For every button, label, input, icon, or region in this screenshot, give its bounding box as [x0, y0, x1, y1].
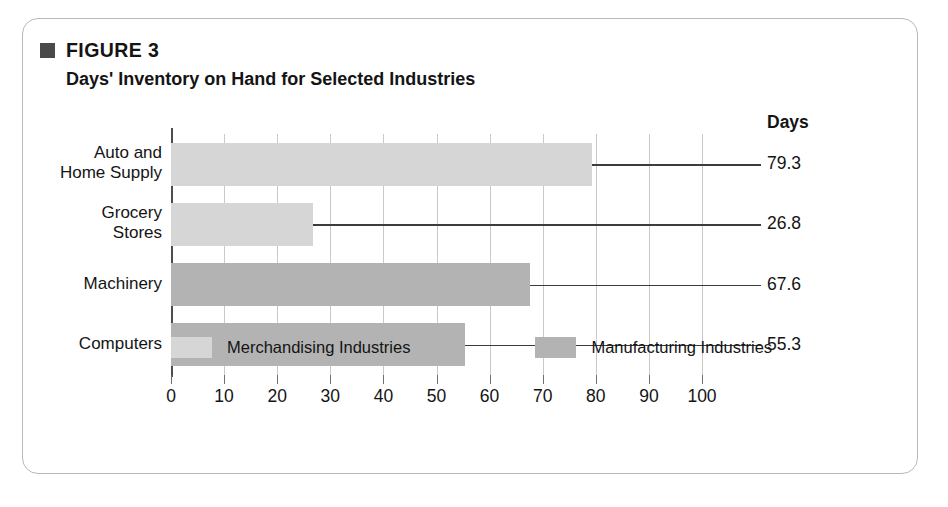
- x-axis-tick-label: 100: [687, 386, 716, 407]
- x-axis-tick-label: 80: [586, 386, 605, 407]
- leader-line: [313, 224, 761, 225]
- x-axis-tick-label: 50: [427, 386, 446, 407]
- category-label: Grocery Stores: [102, 203, 162, 243]
- legend-item-manufacturing: Manufacturing Industries: [535, 337, 772, 358]
- bar: [171, 203, 313, 246]
- value-label: 67.6: [767, 274, 801, 295]
- legend-swatch-icon: [171, 337, 212, 358]
- category-label: Machinery: [84, 274, 162, 294]
- value-label: 26.8: [767, 213, 801, 234]
- category-label: Auto and Home Supply: [60, 143, 162, 183]
- figure-card: FIGURE 3 Days' Inventory on Hand for Sel…: [22, 18, 918, 474]
- x-axis-tick-label: 90: [639, 386, 658, 407]
- x-axis-tick-label: 70: [533, 386, 552, 407]
- x-axis-tick: [490, 375, 491, 384]
- leader-line: [592, 164, 761, 165]
- x-axis-tick: [171, 375, 172, 384]
- x-axis-tick: [277, 375, 278, 384]
- legend-label: Merchandising Industries: [227, 338, 410, 357]
- x-axis-tick-label: 10: [214, 386, 233, 407]
- legend-item-merchandising: Merchandising Industries: [171, 337, 410, 358]
- category-label: Computers: [79, 334, 162, 354]
- value-axis-header: Days: [767, 112, 809, 133]
- legend-swatch-icon: [535, 337, 576, 358]
- x-axis-tick: [383, 375, 384, 384]
- bar: [171, 143, 592, 186]
- x-axis-tick-label: 40: [374, 386, 393, 407]
- x-axis-tick: [330, 375, 331, 384]
- chart-legend: Merchandising Industries Manufacturing I…: [171, 337, 772, 358]
- bar: [171, 263, 530, 306]
- x-axis-tick: [649, 375, 650, 384]
- x-axis-tick-label: 30: [321, 386, 340, 407]
- x-axis-tick: [437, 375, 438, 384]
- x-axis-tick-label: 60: [480, 386, 499, 407]
- x-axis-tick-label: 20: [267, 386, 286, 407]
- x-axis-tick: [224, 375, 225, 384]
- legend-label: Manufacturing Industries: [591, 338, 772, 357]
- value-label: 79.3: [767, 153, 801, 174]
- x-axis-tick: [596, 375, 597, 384]
- leader-line: [530, 285, 761, 286]
- x-axis-tick-label: 0: [166, 386, 176, 407]
- x-axis-tick: [702, 375, 703, 384]
- x-axis-tick: [543, 375, 544, 384]
- bar-chart: Days 0102030405060708090100 Auto and Hom…: [23, 19, 919, 475]
